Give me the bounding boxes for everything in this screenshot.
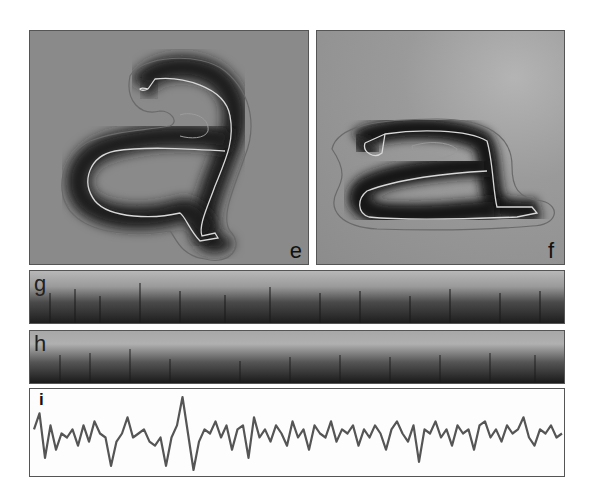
panel-e-letter-image: e (29, 30, 309, 265)
panel-h-image-strip: h (29, 330, 565, 384)
letter-a-contour-f (317, 31, 565, 265)
strip-texture-g (30, 271, 565, 324)
signal-line-chart (30, 389, 565, 477)
panel-i-signal-trace: i (29, 388, 565, 477)
panel-label-h: h (34, 333, 46, 355)
panel-label-e: e (290, 240, 302, 262)
strip-texture-h (30, 331, 565, 384)
panel-g-image-strip: g (29, 270, 565, 324)
panel-label-i: i (39, 391, 44, 408)
panel-label-f: f (548, 240, 554, 262)
panel-f-letter-image: f (316, 30, 565, 265)
panel-label-g: g (34, 273, 46, 295)
letter-a-contour-e (30, 31, 309, 265)
